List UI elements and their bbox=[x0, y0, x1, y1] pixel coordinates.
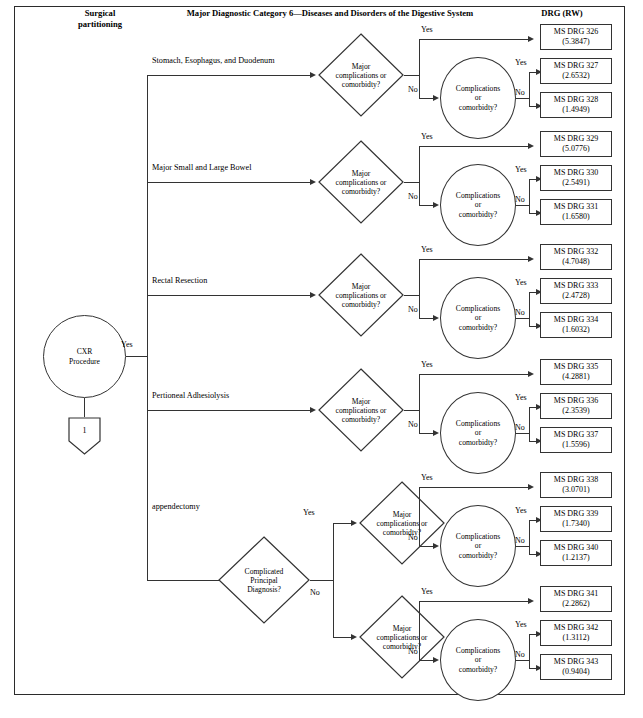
d2-no-arrow bbox=[433, 202, 439, 208]
c3-split bbox=[529, 292, 530, 327]
major-cc-line2-3: complications or bbox=[336, 291, 387, 300]
cc-line1-3: Complications bbox=[456, 304, 500, 313]
drg-box-13[interactable]: MS DRG 338 (3.0701) bbox=[540, 472, 612, 498]
cc-line1-6: Complications bbox=[456, 646, 500, 655]
drg-code-16: MS DRG 341 bbox=[554, 589, 598, 599]
major-cc-diamond-4[interactable]: Major complications or comorbidty? bbox=[318, 368, 404, 452]
drg-box-18[interactable]: MS DRG 343 (0.9404) bbox=[540, 654, 612, 680]
drg-code-9: MS DRG 334 bbox=[554, 315, 598, 325]
drg-box-11[interactable]: MS DRG 336 (2.3539) bbox=[540, 393, 612, 419]
d2-yes-arrow bbox=[528, 143, 534, 149]
drg-box-16[interactable]: MS DRG 341 (2.2862) bbox=[540, 586, 612, 612]
c2-yes-label: Yes bbox=[515, 165, 527, 174]
d6-no-label: No bbox=[408, 647, 418, 656]
cc-line2-4: or bbox=[475, 428, 481, 437]
d2-yes-label: Yes bbox=[421, 132, 433, 141]
d3-yes-stub bbox=[404, 295, 420, 296]
drg-rw-17: (1.3112) bbox=[562, 633, 589, 643]
branch-line-1 bbox=[147, 75, 312, 76]
major-cc-diamond-5[interactable]: Major complications or comorbidty? bbox=[359, 481, 445, 565]
cpd-yes-run bbox=[333, 523, 353, 524]
drg-rw-11: (2.3539) bbox=[562, 406, 589, 416]
major-cc-line1-3: Major bbox=[352, 282, 371, 291]
d3-yes-run bbox=[419, 259, 530, 260]
drg-box-15[interactable]: MS DRG 340 (1.2137) bbox=[540, 540, 612, 566]
drg-code-15: MS DRG 340 bbox=[554, 543, 598, 553]
major-cc-line1-6: Major bbox=[393, 624, 412, 633]
drg-box-17[interactable]: MS DRG 342 (1.3112) bbox=[540, 620, 612, 646]
cc-line2-3: or bbox=[475, 313, 481, 322]
branch-line-5 bbox=[147, 580, 220, 581]
drg-box-4[interactable]: MS DRG 329 (5.0776) bbox=[540, 131, 612, 157]
branch-arrow-4 bbox=[310, 407, 316, 413]
c3-yes-label: Yes bbox=[515, 278, 527, 287]
major-cc-line2-2: complications or bbox=[336, 178, 387, 187]
drg-box-14[interactable]: MS DRG 339 (1.7340) bbox=[540, 506, 612, 532]
d6-yes-riser bbox=[419, 601, 420, 638]
cpd-no-label: No bbox=[310, 588, 320, 597]
drg-code-10: MS DRG 335 bbox=[554, 362, 598, 372]
drg-box-8[interactable]: MS DRG 333 (2.4728) bbox=[540, 278, 612, 304]
diagram-page: Surgical partitioning Major Diagnostic C… bbox=[0, 0, 643, 718]
drg-code-1: MS DRG 326 bbox=[554, 27, 598, 37]
complicated-principal-diagnosis-diamond[interactable]: Complicated Principal Diagnosis? bbox=[218, 536, 310, 624]
drg-box-2[interactable]: MS DRG 327 (2.6532) bbox=[540, 58, 612, 84]
drg-code-14: MS DRG 339 bbox=[554, 509, 598, 519]
cpd-no-run bbox=[333, 637, 353, 638]
d3-yes-riser bbox=[419, 259, 420, 296]
c6-out-stub bbox=[516, 660, 530, 661]
d3-no-label: No bbox=[408, 305, 418, 314]
major-cc-line1-5: Major bbox=[393, 510, 412, 519]
d1-no-dropper bbox=[419, 75, 420, 99]
major-cc-diamond-2[interactable]: Major complications or comorbidty? bbox=[318, 140, 404, 224]
c4-split bbox=[529, 407, 530, 442]
cc-circle-6[interactable]: Complications or comorbidty? bbox=[440, 619, 516, 701]
major-cc-diamond-6[interactable]: Major complications or comorbidty? bbox=[359, 595, 445, 679]
offpage-connector-1[interactable]: 1 bbox=[68, 417, 101, 455]
cc-circle-2[interactable]: Complications or comorbidty? bbox=[440, 164, 516, 246]
drg-box-10[interactable]: MS DRG 335 (4.2881) bbox=[540, 359, 612, 385]
cc-line3-2: comorbidty? bbox=[459, 210, 497, 219]
drg-rw-7: (4.7048) bbox=[562, 257, 589, 267]
drg-rw-4: (5.0776) bbox=[562, 144, 589, 154]
header-right: DRG (RW) bbox=[512, 8, 612, 19]
cc-circle-4[interactable]: Complications or comorbidty? bbox=[440, 392, 516, 474]
drg-rw-6: (1.6580) bbox=[562, 212, 589, 222]
cpd-no-arrow bbox=[351, 634, 357, 640]
d5-no-label: No bbox=[408, 533, 418, 542]
drg-box-7[interactable]: MS DRG 332 (4.7048) bbox=[540, 244, 612, 270]
major-cc-line3-4: comorbidty? bbox=[342, 415, 380, 424]
d6-no-dropper bbox=[419, 637, 420, 661]
cc-circle-1[interactable]: Complications or comorbidty? bbox=[440, 57, 516, 139]
cc-circle-5[interactable]: Complications or comorbidty? bbox=[440, 505, 516, 587]
c2-no-label: No bbox=[515, 195, 525, 204]
drg-box-5[interactable]: MS DRG 330 (2.5491) bbox=[540, 165, 612, 191]
c3-no-label: No bbox=[515, 308, 525, 317]
drg-box-1[interactable]: MS DRG 326 (5.3847) bbox=[540, 24, 612, 50]
d1-yes-stub bbox=[404, 75, 420, 76]
d2-no-dropper bbox=[419, 182, 420, 206]
drg-box-12[interactable]: MS DRG 337 (1.5596) bbox=[540, 427, 612, 453]
c1-no-label: No bbox=[515, 88, 525, 97]
major-cc-diamond-1[interactable]: Major complications or comorbidty? bbox=[318, 33, 404, 117]
drg-rw-10: (4.2881) bbox=[562, 372, 589, 382]
drg-rw-2: (2.6532) bbox=[562, 71, 589, 81]
drg-box-6[interactable]: MS DRG 331 (1.6580) bbox=[540, 199, 612, 225]
d6-yes-run bbox=[419, 601, 530, 602]
d5-yes-arrow bbox=[528, 484, 534, 490]
cc-circle-3[interactable]: Complications or comorbidty? bbox=[440, 277, 516, 359]
drg-code-8: MS DRG 333 bbox=[554, 281, 598, 291]
major-cc-line3-1: comorbidty? bbox=[342, 80, 380, 89]
drg-box-3[interactable]: MS DRG 328 (1.4949) bbox=[540, 92, 612, 118]
c4-no-label: No bbox=[515, 423, 525, 432]
d4-no-dropper bbox=[419, 410, 420, 434]
cxr-label-line2: Procedure bbox=[69, 357, 100, 366]
d1-yes-label: Yes bbox=[421, 25, 433, 34]
drg-code-3: MS DRG 328 bbox=[554, 95, 598, 105]
major-cc-line3-3: comorbidty? bbox=[342, 300, 380, 309]
major-cc-diamond-3[interactable]: Major complications or comorbidty? bbox=[318, 253, 404, 337]
d3-yes-arrow bbox=[528, 256, 534, 262]
cxr-procedure-node[interactable]: CXR Procedure bbox=[43, 315, 126, 398]
drg-code-2: MS DRG 327 bbox=[554, 61, 598, 71]
drg-box-9[interactable]: MS DRG 334 (1.6032) bbox=[540, 312, 612, 338]
